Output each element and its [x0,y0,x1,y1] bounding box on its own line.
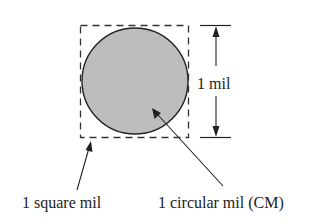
circular-mil-diagram: 1 mil 1 square mil 1 circular mil (CM) [0,0,331,224]
dimension-label: 1 mil [197,75,231,92]
dimension-arrow-up-icon [213,26,220,66]
circle-shape [82,28,188,134]
dimension-arrow-down-icon [213,96,220,137]
square-pointer-arrow-icon [77,141,93,190]
circle-pointer-arrow-icon [152,108,223,186]
circular-mil-label: 1 circular mil (CM) [158,194,284,212]
square-mil-label: 1 square mil [22,194,102,212]
